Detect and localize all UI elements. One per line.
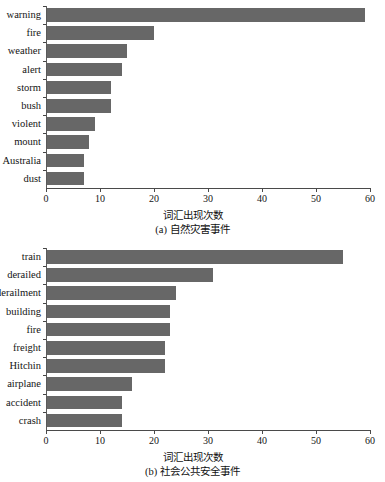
bar-row: weather <box>46 42 370 60</box>
bar-row: mount <box>46 133 370 151</box>
bar <box>46 63 122 77</box>
bar <box>46 377 132 391</box>
bar <box>46 250 343 264</box>
x-axis-tick <box>316 430 317 434</box>
x-axis-tick-label: 40 <box>257 193 267 204</box>
y-axis-tick-label: fire <box>0 321 41 339</box>
x-axis-tick <box>154 188 155 192</box>
x-axis-tick <box>316 188 317 192</box>
bar-row: crash <box>46 412 370 430</box>
figure-two-bar-charts: warningfireweatheralertstormbushviolentm… <box>0 0 385 482</box>
bar-row: derailed <box>46 266 370 284</box>
y-axis-tick-label: freight <box>0 339 41 357</box>
chart-panel-a: warningfireweatheralertstormbushviolentm… <box>0 0 385 232</box>
bars-container-b: trainderailedderailmentbuildingfirefreig… <box>46 248 370 430</box>
x-axis-tick-label: 0 <box>44 435 49 446</box>
y-axis-line-b <box>46 248 47 430</box>
bar-row: freight <box>46 339 370 357</box>
bar-row: fire <box>46 24 370 42</box>
bar-row: bush <box>46 97 370 115</box>
x-axis-tick <box>208 430 209 434</box>
y-axis-tick-label: dust <box>0 170 41 188</box>
y-axis-tick-label: accident <box>0 394 41 412</box>
y-axis-tick-label: storm <box>0 79 41 97</box>
x-axis-tick-label: 20 <box>149 435 159 446</box>
x-axis-tick <box>262 430 263 434</box>
y-axis-tick-label: train <box>0 248 41 266</box>
x-axis-tick <box>46 188 47 192</box>
bar-row: Australia <box>46 152 370 170</box>
y-axis-tick-label: Australia <box>0 152 41 170</box>
y-axis-tick-label: bush <box>0 97 41 115</box>
x-axis-title-b: 词汇出现次数 <box>0 449 385 464</box>
y-axis-tick-label: warning <box>0 6 41 24</box>
x-axis-tick-label: 60 <box>365 193 375 204</box>
bar <box>46 135 89 149</box>
x-axis-tick <box>208 188 209 192</box>
x-axis-tick <box>262 188 263 192</box>
bar <box>46 44 127 58</box>
bar <box>46 172 84 186</box>
panel-caption-b: (b) 社会公共安全事件 <box>0 463 385 478</box>
x-axis-tick-label: 30 <box>203 435 213 446</box>
bar-row: storm <box>46 79 370 97</box>
x-axis-tick <box>100 188 101 192</box>
x-axis-tick-label: 0 <box>44 193 49 204</box>
bar <box>46 396 122 410</box>
y-axis-tick-label: airplane <box>0 375 41 393</box>
bar <box>46 323 170 337</box>
x-axis-tick-label: 50 <box>311 193 321 204</box>
panel-caption-a: (a) 自然灾害事件 <box>0 221 385 236</box>
bar-row: Hitchin <box>46 357 370 375</box>
bar-row: dust <box>46 170 370 188</box>
x-axis-tick-label: 50 <box>311 435 321 446</box>
bar-row: warning <box>46 6 370 24</box>
y-axis-tick-label: Hitchin <box>0 357 41 375</box>
x-axis-tick-label: 60 <box>365 435 375 446</box>
bar-row: airplane <box>46 375 370 393</box>
bar <box>46 26 154 40</box>
x-axis-tick-label: 20 <box>149 193 159 204</box>
y-axis-tick-label: mount <box>0 133 41 151</box>
bar <box>46 341 165 355</box>
y-axis-tick-label: derailment <box>0 284 41 302</box>
bar <box>46 117 95 131</box>
y-axis-tick-label: crash <box>0 412 41 430</box>
y-axis-tick-label: fire <box>0 24 41 42</box>
x-axis-tick-label: 10 <box>95 193 105 204</box>
bar-row: derailment <box>46 284 370 302</box>
x-axis-tick <box>46 430 47 434</box>
bar-row: accident <box>46 394 370 412</box>
y-axis-tick-label: alert <box>0 61 41 79</box>
bar-row: alert <box>46 61 370 79</box>
x-axis-tick-label: 40 <box>257 435 267 446</box>
x-axis-tick <box>100 430 101 434</box>
y-axis-tick-label: violent <box>0 115 41 133</box>
bar <box>46 99 111 113</box>
bar <box>46 286 176 300</box>
bar-row: violent <box>46 115 370 133</box>
y-axis-line-a <box>46 6 47 188</box>
bar <box>46 414 122 428</box>
bar-row: fire <box>46 321 370 339</box>
bar <box>46 305 170 319</box>
y-axis-tick-label: building <box>0 303 41 321</box>
bar <box>46 81 111 95</box>
bar <box>46 359 165 373</box>
bar <box>46 8 365 22</box>
x-axis-tick <box>154 430 155 434</box>
x-axis-line-a: 0102030405060 <box>46 188 370 189</box>
x-axis-line-b: 0102030405060 <box>46 430 370 431</box>
x-axis-tick <box>370 188 371 192</box>
x-axis-title-a: 词汇出现次数 <box>0 207 385 222</box>
y-axis-tick-label: weather <box>0 42 41 60</box>
bar <box>46 154 84 168</box>
bars-container-a: warningfireweatheralertstormbushviolentm… <box>46 6 370 188</box>
bar <box>46 268 213 282</box>
x-axis-tick <box>370 430 371 434</box>
y-axis-tick-label: derailed <box>0 266 41 284</box>
x-axis-tick-label: 30 <box>203 193 213 204</box>
bar-row: building <box>46 303 370 321</box>
x-axis-tick-label: 10 <box>95 435 105 446</box>
bar-row: train <box>46 248 370 266</box>
